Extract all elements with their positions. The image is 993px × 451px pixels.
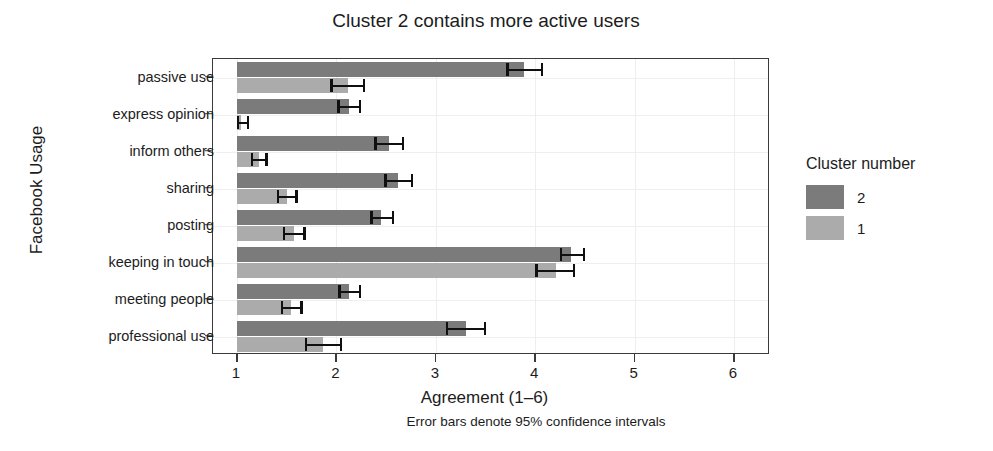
error-bar-line <box>384 180 413 182</box>
gridline-vertical <box>734 59 735 353</box>
error-bar-line <box>446 328 487 330</box>
legend-item[interactable]: 1 <box>806 216 915 240</box>
error-bar-cap-low <box>384 174 386 187</box>
error-bar-cap-high <box>265 153 267 166</box>
chart-root: Cluster 2 contains more active users Fac… <box>0 0 993 451</box>
error-bar <box>446 321 487 336</box>
y-tick-label: meeting people <box>115 291 214 307</box>
error-bar <box>305 337 343 352</box>
error-bar-cap-high <box>392 211 394 224</box>
x-tick-label: 3 <box>431 364 439 381</box>
error-bar <box>283 226 306 241</box>
error-bar <box>338 284 361 299</box>
error-bar-line <box>330 85 365 87</box>
error-bar-cap-low <box>251 153 253 166</box>
y-tick-label: sharing <box>166 180 214 196</box>
error-bar-line <box>535 270 575 272</box>
bar <box>237 136 389 151</box>
error-bar-cap-high <box>363 79 365 92</box>
error-bar-line <box>338 291 361 293</box>
error-bar <box>337 99 361 114</box>
error-bar-cap-high <box>583 248 585 261</box>
error-bar-cap-high <box>484 322 486 335</box>
legend-items: 21 <box>806 185 915 240</box>
chart-caption: Error bars denote 95% confidence interva… <box>236 414 836 429</box>
error-bar <box>237 115 249 130</box>
plot-panel <box>212 58 769 354</box>
legend: Cluster number 21 <box>806 155 915 247</box>
y-axis-title: Facebook Usage <box>27 90 47 290</box>
error-bar <box>384 173 413 188</box>
error-bar-cap-low <box>330 79 332 92</box>
gridline-vertical <box>436 59 437 353</box>
error-bar <box>330 78 365 93</box>
legend-label: 2 <box>857 189 865 206</box>
error-bar <box>281 300 303 315</box>
y-tick-label: posting <box>167 217 214 233</box>
x-tick-mark <box>634 354 636 362</box>
error-bar-cap-low <box>305 338 307 351</box>
error-bar-cap-low <box>370 211 372 224</box>
error-bar-line <box>305 344 343 346</box>
x-tick-mark <box>435 354 437 362</box>
error-bar-line <box>337 106 361 108</box>
error-bar-line <box>370 217 394 219</box>
error-bar-line <box>374 143 404 145</box>
bar <box>237 173 398 188</box>
gridline-vertical <box>635 59 636 353</box>
x-tick-label: 5 <box>629 364 637 381</box>
gridline-horizontal <box>213 152 768 153</box>
bar <box>237 210 381 225</box>
legend-item[interactable]: 2 <box>806 185 915 209</box>
error-bar-cap-high <box>359 285 361 298</box>
bar <box>237 247 571 262</box>
error-bar-line <box>283 233 306 235</box>
bar <box>237 321 466 336</box>
y-tick-label: passive use <box>137 69 214 85</box>
bar <box>237 284 349 299</box>
y-tick-label: inform others <box>129 143 214 159</box>
x-tick-mark <box>733 354 735 362</box>
chart-title: Cluster 2 contains more active users <box>236 10 736 32</box>
error-bar <box>560 247 585 262</box>
error-bar-cap-high <box>573 264 575 277</box>
error-bar <box>277 189 298 204</box>
error-bar-cap-high <box>300 301 302 314</box>
error-bar-cap-low <box>374 137 376 150</box>
bar <box>237 62 524 77</box>
error-bar-cap-high <box>402 137 404 150</box>
bar <box>237 263 556 278</box>
error-bar-cap-high <box>541 63 543 76</box>
error-bar-cap-high <box>411 174 413 187</box>
error-bar-cap-high <box>295 190 297 203</box>
error-bar-cap-high <box>340 338 342 351</box>
x-tick-label: 1 <box>232 364 240 381</box>
error-bar-cap-low <box>281 301 283 314</box>
legend-swatch <box>806 185 844 209</box>
error-bar-cap-low <box>535 264 537 277</box>
error-bar-cap-low <box>237 116 239 129</box>
error-bar <box>370 210 394 225</box>
error-bar <box>374 136 404 151</box>
x-tick-mark <box>236 354 238 362</box>
error-bar-cap-low <box>338 285 340 298</box>
error-bar-cap-high <box>247 116 249 129</box>
error-bar-cap-high <box>359 100 361 113</box>
y-tick-label: professional use <box>108 328 214 344</box>
error-bar <box>251 152 268 167</box>
error-bar <box>535 263 575 278</box>
bar <box>237 99 349 114</box>
legend-label: 1 <box>857 220 865 237</box>
legend-title: Cluster number <box>806 155 915 173</box>
error-bar-cap-low <box>506 63 508 76</box>
error-bar-cap-high <box>303 227 305 240</box>
error-bar-cap-low <box>337 100 339 113</box>
x-axis-title: Agreement (1–6) <box>236 388 733 408</box>
error-bar <box>506 62 543 77</box>
x-tick-label: 2 <box>331 364 339 381</box>
x-tick-mark <box>335 354 337 362</box>
x-tick-label: 6 <box>729 364 737 381</box>
error-bar-line <box>506 69 543 71</box>
error-bar-cap-low <box>277 190 279 203</box>
gridline-vertical <box>535 59 536 353</box>
